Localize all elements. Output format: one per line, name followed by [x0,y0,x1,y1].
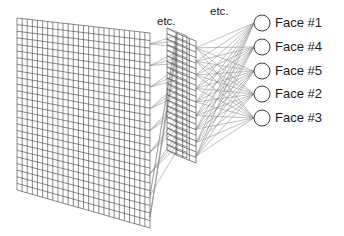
node-circle-face-1 [254,15,270,31]
output-node-face-2: Face #2 [254,86,322,102]
output-label-face-4: Face #4 [275,39,322,54]
output-node-face-5: Face #5 [254,63,322,79]
output-node-face-4: Face #4 [254,39,322,55]
input-to-hidden-connections [150,36,176,217]
node-circle-face-4 [254,39,270,55]
output-node-face-1: Face #1 [254,15,322,31]
output-node-group: Face #1Face #4Face #5Face #2Face #3 [254,15,322,126]
neural-network-diagram: Face #1Face #4Face #5Face #2Face #3 etc.… [0,0,344,236]
diagram-canvas: Face #1Face #4Face #5Face #2Face #3 etc.… [0,0,344,236]
output-label-face-1: Face #1 [275,15,322,30]
output-node-face-3: Face #3 [254,110,322,126]
node-circle-face-5 [254,63,270,79]
output-label-face-2: Face #2 [275,86,322,101]
annotation-etc-hidden: etc. [157,15,176,27]
node-circle-face-3 [254,110,270,126]
output-label-face-5: Face #5 [275,63,322,78]
annotation-etc-output: etc. [210,5,229,17]
node-circle-face-2 [254,86,270,102]
annotation-group: etc.etc. [157,5,229,27]
hidden-to-output-connections [196,23,254,156]
input-image-grid [17,18,150,228]
output-label-face-3: Face #3 [275,110,322,125]
